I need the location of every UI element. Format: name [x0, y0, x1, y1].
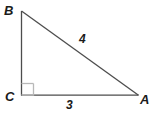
- side-length-label-hypotenuse: 4: [79, 33, 86, 45]
- side-length-label-base: 3: [66, 99, 73, 111]
- vertex-label-a: A: [140, 93, 149, 106]
- right-angle-marker-icon: [22, 84, 34, 96]
- vertex-label-c: C: [5, 90, 14, 103]
- triangle-diagram: [0, 0, 153, 118]
- geometry-figure: B C A 4 3: [0, 0, 153, 118]
- triangle-hypotenuse-ba: [22, 11, 139, 95]
- vertex-label-b: B: [4, 4, 13, 17]
